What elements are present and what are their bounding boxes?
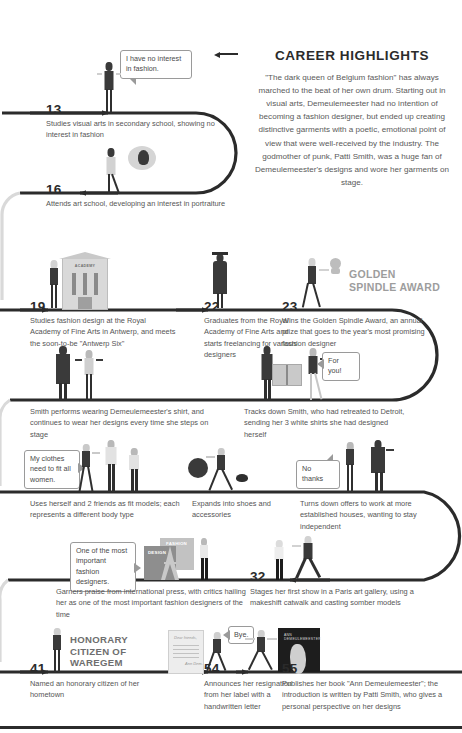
event-desc-smith-performs: Smith performs wearing Demeulemeester's … (30, 406, 210, 440)
speech-bubble-for-you: For you! (322, 352, 360, 381)
event-desc-fit-models: Uses herself and 2 friends as fit models… (30, 498, 180, 521)
speech-bubble-press: One of the most important fashion design… (70, 542, 136, 592)
figure-designer-declines (340, 442, 360, 492)
eiffel-tower-icon (156, 546, 184, 580)
bubble-tail (317, 359, 324, 369)
shoe-icon (236, 474, 248, 482)
speech-bubble-13: I have no interest in fashion. (120, 50, 192, 79)
bubble-tail (129, 78, 136, 85)
event-desc-13: Studies visual arts in secondary school,… (46, 118, 236, 141)
age-marker-23: 23 (282, 300, 297, 314)
event-desc-book: Publishes her book "Ann Demeulemeester";… (282, 678, 460, 712)
academy-label: ACADEMY (75, 264, 95, 268)
figure-running-accessories (210, 448, 232, 492)
figure-fit-model-3 (124, 448, 144, 492)
figure-art-student (100, 148, 122, 194)
event-desc-shoes-accessories: Expands into shoes and accessories (192, 498, 296, 521)
figure-patti-smith (50, 346, 76, 400)
event-desc-tracks-down-smith: Tracks down Smith, who had retreated to … (244, 406, 412, 440)
resignation-letter-icon: Dear friends, Ann Dem. (168, 630, 204, 674)
arrow-left-icon (220, 53, 238, 55)
figure-gift-giver (302, 348, 324, 400)
event-desc-paris-show: Stages her first show in a Paris art gal… (250, 586, 440, 609)
bubble-tail (134, 563, 141, 573)
figure-fit-model-2 (100, 440, 122, 492)
age-marker-16: 16 (46, 183, 61, 197)
event-desc-honorary: Named an honorary citizen of her hometow… (30, 678, 160, 701)
bubble-tail (223, 630, 230, 640)
figure-paris-model-1 (268, 540, 290, 580)
figure-student-19 (44, 260, 64, 308)
event-desc-turns-down-offers: Turns down offers to work at more establ… (300, 498, 450, 532)
intro-paragraph: "The dark queen of Belgium fashion" has … (246, 71, 458, 189)
age-marker-54: 54 (204, 662, 219, 676)
age-marker-19: 19 (30, 300, 45, 314)
figure-teen (98, 62, 120, 112)
event-desc-23: Wins the Golden Spindle Award, an annual… (282, 315, 430, 349)
honorary-citizen-label: HONORARY CITIZEN OF WAREGEM (70, 634, 162, 669)
academy-building-icon: ACADEMY (62, 258, 108, 310)
portrait-face-icon (138, 150, 149, 165)
figure-fit-model-1 (76, 444, 96, 492)
figure-award-winner (300, 258, 324, 308)
event-desc-16: Attends art school, developing an intere… (46, 198, 236, 209)
handbag-icon (188, 458, 208, 478)
book-title: ANN DEMEULEMEESTER (284, 633, 321, 641)
gift-box-icon (272, 364, 302, 386)
age-marker-22: 22 (204, 300, 219, 314)
letter-salutation: Dear friends, (174, 635, 197, 640)
age-marker-32: 32 (250, 570, 265, 584)
spindle-base-icon (331, 268, 340, 274)
figure-demeulemeester-stage (78, 350, 100, 400)
golden-spindle-award-label: GOLDEN SPINDLE AWARD (349, 268, 454, 294)
event-desc-press-praise: Garners praise from international press,… (56, 586, 252, 620)
page-title: CAREER HIGHLIGHTS (275, 48, 429, 63)
figure-paris-model-2 (296, 536, 320, 580)
letter-signature: Ann Dem. (185, 661, 203, 666)
age-marker-55: 55 (282, 662, 297, 676)
figure-fashion-house-exec (366, 440, 390, 492)
age-marker-13: 13 (46, 103, 61, 117)
bubble-tail (326, 454, 333, 461)
career-highlights-header: CAREER HIGHLIGHTS "The dark queen of Bel… (246, 46, 458, 189)
infographic-canvas: CAREER HIGHLIGHTS "The dark queen of Bel… (0, 0, 462, 733)
figure-press-model (194, 538, 214, 580)
event-desc-19: Studies fashion design at the Royal Acad… (30, 315, 178, 349)
speech-bubble-my-clothes: My clothes need to fit all women. (24, 450, 80, 489)
age-marker-41: 41 (30, 662, 45, 676)
figure-book-author (250, 630, 272, 672)
figure-honorary-citizen (46, 628, 68, 672)
speech-bubble-no-thanks: No thanks (296, 460, 340, 489)
